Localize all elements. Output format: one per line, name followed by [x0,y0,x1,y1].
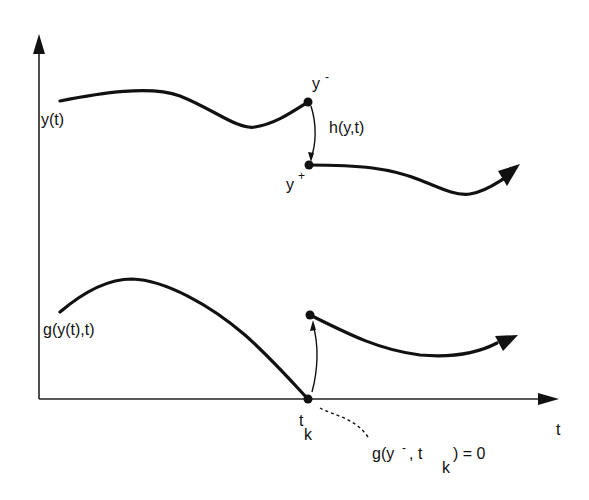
y-minus-label: y - [312,76,320,92]
g-jump-arrow-head-icon [310,320,316,331]
g-jump-arrow [312,325,317,392]
event-condition-leader [320,408,368,437]
y-plus-label: y + [286,177,294,193]
g-curve-label: g(y(t),t) [43,322,95,338]
jump-arrow-h [311,106,315,158]
g-curve-pre-event [60,279,308,399]
y-axis [33,34,45,399]
tk-label: t k [299,413,303,429]
x-axis-arrow-icon [538,393,559,405]
jump-arrow-h-head-icon [308,152,314,162]
y-curve-arrow-icon [498,164,520,186]
y-axis-arrow-icon [33,34,45,54]
x-axis [39,393,559,405]
y-curve-pre-jump [60,91,308,128]
event-condition-label: g(y - , t k ) = 0 [372,446,572,476]
x-axis-label: t [556,422,560,438]
event-point-tk [304,395,313,404]
hybrid-system-diagram [0,0,589,500]
jump-map-label: h(y,t) [329,120,364,136]
y-curve-post-jump [309,165,505,194]
y-minus-point [304,98,313,107]
g-curve-post-event [310,315,497,356]
y-curve-label: y(t) [41,112,64,128]
